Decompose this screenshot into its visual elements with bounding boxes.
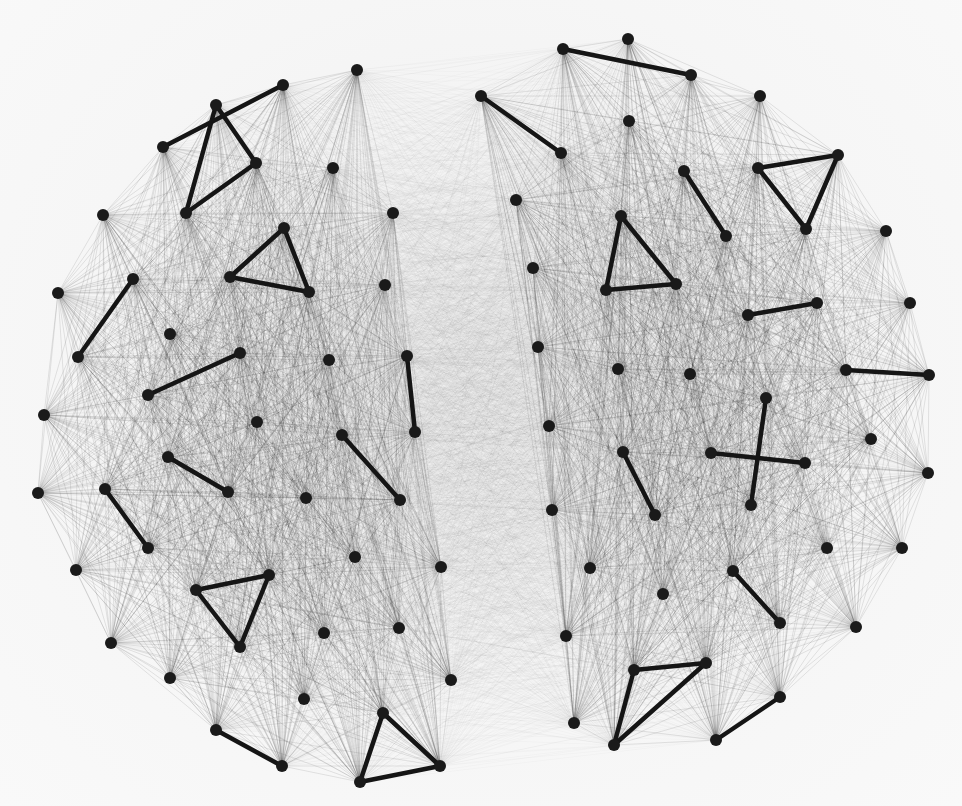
network-graph-figure: [0, 0, 962, 806]
